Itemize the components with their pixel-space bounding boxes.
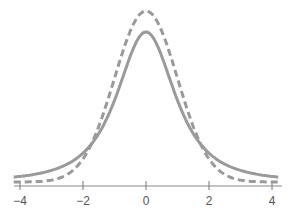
density-plot: −4−2024 <box>0 0 299 219</box>
solid-curve <box>14 32 279 177</box>
x-axis-ticks: −4−2024 <box>13 181 276 208</box>
dashed-curve <box>14 11 279 182</box>
x-tick-label: 0 <box>143 194 150 208</box>
chart: −4−2024 <box>0 0 299 219</box>
x-tick-label: 2 <box>206 194 213 208</box>
x-tick-label: −4 <box>13 194 27 208</box>
x-tick-label: 4 <box>269 194 276 208</box>
x-tick-label: −2 <box>76 194 90 208</box>
